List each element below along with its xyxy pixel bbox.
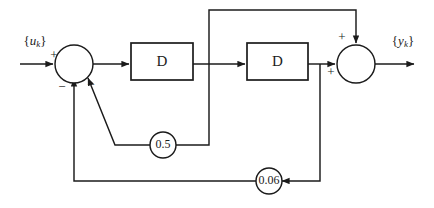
input-summer-minus-sign-vertical: − (58, 79, 65, 94)
wire-gain-006-to-summer (74, 79, 256, 181)
output-summer-plus-sign-left: + (327, 64, 334, 79)
wire-gain-half-to-summer (88, 78, 150, 145)
gain-006-label: 0.06 (259, 173, 280, 187)
gain-half-label: 0.5 (156, 137, 171, 151)
wire-tap-to-gain-006 (282, 64, 320, 181)
output-summer (337, 45, 375, 83)
output-brace-close: } (408, 33, 414, 48)
input-summer-plus-sign: + (50, 47, 57, 62)
input-summer-minus-sign-diagonal: − (87, 77, 94, 92)
delay-block-1-label: D (157, 53, 168, 69)
gain-nodes: 0.5 0.06 (150, 132, 282, 194)
delay-blocks: D D (131, 43, 308, 80)
input-signal-label: {uk} (24, 33, 47, 49)
delay-block-2-label: D (272, 53, 283, 69)
block-diagram: D D 0.5 0.06 + − − + + {uk} {yk} (0, 0, 434, 208)
block-diagram-canvas: D D 0.5 0.06 + − − + + {uk} {yk} (0, 0, 434, 208)
input-brace-close: } (40, 33, 46, 48)
output-signal-label: {yk} (392, 33, 414, 49)
output-summer-plus-sign-top: + (338, 29, 345, 44)
wires (20, 10, 414, 181)
